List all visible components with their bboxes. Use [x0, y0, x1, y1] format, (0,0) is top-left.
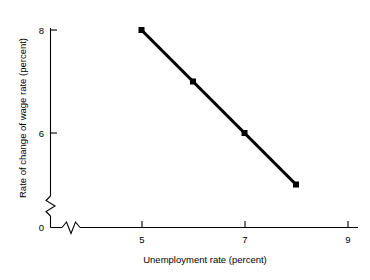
y-axis-title: Rate of change of wage rate (percent)	[17, 38, 28, 198]
x-tick-label-7: 7	[242, 234, 247, 245]
chart-container: 8 6 0 5 7 9 Unemployment rate (percent) …	[0, 0, 370, 280]
data-point-marker	[242, 130, 248, 136]
data-point-marker	[139, 27, 145, 33]
y-tick-label-0: 0	[39, 222, 44, 233]
data-point-marker	[190, 79, 196, 85]
y-tick-label-8: 8	[39, 25, 44, 36]
phillips-curve-chart: 8 6 0 5 7 9 Unemployment rate (percent) …	[0, 0, 370, 280]
chart-background	[0, 0, 370, 280]
data-point-marker	[293, 182, 299, 188]
y-tick-label-6: 6	[39, 128, 44, 139]
x-axis-title: Unemployment rate (percent)	[143, 254, 267, 265]
x-tick-label-5: 5	[139, 234, 144, 245]
x-tick-label-9: 9	[345, 234, 350, 245]
